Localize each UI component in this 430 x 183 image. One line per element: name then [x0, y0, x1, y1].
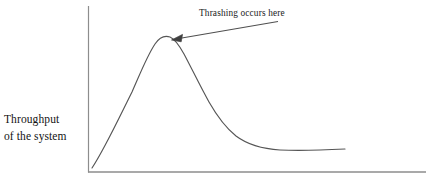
y-axis-label: Throughput of the system — [4, 111, 86, 145]
annotation-label: Thrashing occurs here — [199, 7, 285, 19]
annotation-arrowhead-icon — [172, 34, 183, 41]
plot-area — [0, 0, 430, 183]
annotation-leader-line — [176, 22, 278, 40]
thrashing-throughput-figure: Throughput of the system Thrashing occur… — [0, 0, 430, 183]
throughput-curve — [92, 36, 345, 168]
y-axis-label-line-1: Throughput — [4, 111, 86, 128]
y-axis-label-line-2: of the system — [4, 128, 86, 145]
